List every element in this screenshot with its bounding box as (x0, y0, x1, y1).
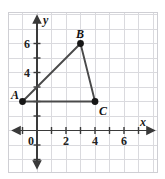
vertex-label-a: A (11, 89, 19, 101)
point-c (92, 98, 99, 105)
point-a (19, 98, 26, 105)
x-axis-arrow-left (13, 127, 20, 134)
origin-tick-label: 0 (28, 135, 34, 147)
x-axis-label: x (140, 116, 146, 128)
y-axis-arrow-down (34, 161, 41, 168)
y-axis-arrow-up (34, 16, 41, 23)
vertex-label-b: B (76, 28, 84, 40)
y-axis (34, 16, 41, 168)
y-tick-label-4: 4 (24, 67, 30, 79)
point-b (77, 40, 84, 47)
vertex-label-c: C (99, 105, 107, 117)
y-tick-label-6: 6 (24, 38, 30, 50)
y-axis-label: y (43, 14, 48, 26)
x-axis (13, 127, 154, 134)
x-tick-label-2: 2 (63, 135, 69, 147)
coordinate-plane-figure: y x 0 2 4 6 4 6 A B C (0, 0, 165, 179)
x-tick-label-6: 6 (121, 135, 127, 147)
x-tick-label-4: 4 (92, 135, 98, 147)
